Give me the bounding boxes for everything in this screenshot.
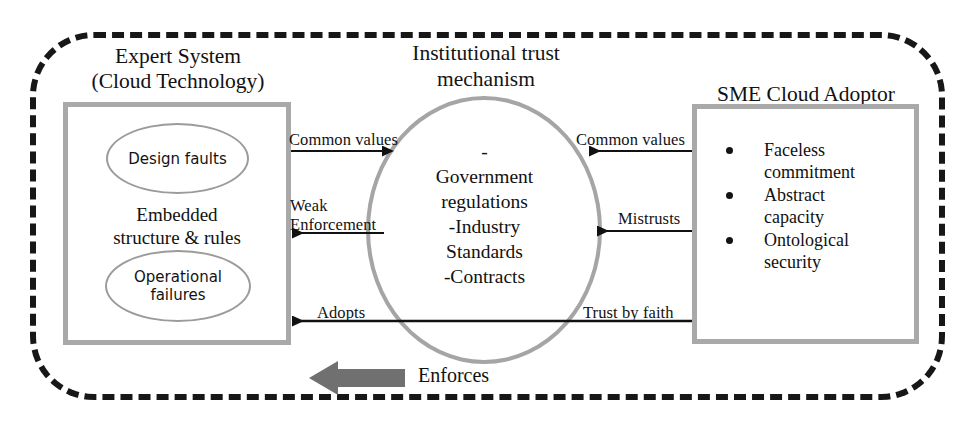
arrow-label-trust-by-faith: Trust by faith <box>583 303 674 322</box>
operational-failures-ellipse: Operational failures <box>105 250 251 322</box>
arrow-label-weak-enforcement: Weak Enforcement <box>290 196 376 234</box>
arrow-label-mistrusts: Mistrusts <box>618 209 680 228</box>
sme-attributes-list: Faceless commitment Abstract capacity On… <box>722 140 902 275</box>
list-item: Ontological security <box>722 230 902 273</box>
arrow-label-common-values-left: Common values <box>289 130 398 149</box>
list-item: Abstract capacity <box>722 185 902 228</box>
institutional-trust-caption: Institutional trust mechanism <box>372 40 600 92</box>
embedded-structure-label: Embedded structure & rules <box>70 203 284 249</box>
diagram-canvas: Expert System (Cloud Technology) Design … <box>0 0 973 425</box>
arrow-label-adopts: Adopts <box>317 303 365 322</box>
institutional-trust-body-text: - Government regulations -Industry Stand… <box>392 139 577 289</box>
arrow-label-common-values-right: Common values <box>576 130 685 149</box>
expert-system-caption: Expert System (Cloud Technology) <box>60 44 296 94</box>
design-faults-ellipse: Design faults <box>106 123 249 194</box>
arrow-label-enforces: Enforces <box>418 363 489 387</box>
list-item: Faceless commitment <box>722 140 902 183</box>
